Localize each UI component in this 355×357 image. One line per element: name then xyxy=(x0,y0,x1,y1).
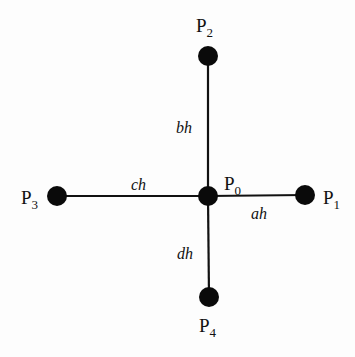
node-label-p3: P3 xyxy=(21,187,38,212)
nodes-layer xyxy=(47,46,315,307)
node-p3 xyxy=(47,186,67,206)
node-p4 xyxy=(199,287,219,307)
node-label-p2: P2 xyxy=(196,15,213,40)
node-p0 xyxy=(198,186,218,206)
diagram-canvas: ahbhchdh P0P1P2P3P4 xyxy=(0,0,355,357)
node-label-p0: P0 xyxy=(224,173,241,198)
edge-label-ch: ch xyxy=(131,176,146,193)
node-p2 xyxy=(198,46,218,66)
stencil-diagram: ahbhchdh P0P1P2P3P4 xyxy=(0,0,355,357)
node-label-p4: P4 xyxy=(199,315,217,340)
edge-p0-p4 xyxy=(208,196,209,297)
node-p1 xyxy=(295,185,315,205)
edge-label-bh: bh xyxy=(176,119,192,136)
edge-p0-p1 xyxy=(208,195,305,196)
node-labels-layer: P0P1P2P3P4 xyxy=(21,15,340,340)
node-label-p1: P1 xyxy=(323,187,340,212)
edge-labels-layer: ahbhchdh xyxy=(131,119,267,262)
edge-label-dh: dh xyxy=(177,245,193,262)
edge-label-ah: ah xyxy=(251,205,267,222)
